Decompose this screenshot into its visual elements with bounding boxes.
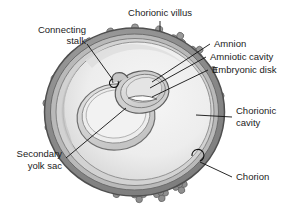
label-amnion: Amnion xyxy=(214,38,246,49)
label-secondary-yolk-sac-line1: Secondary xyxy=(17,148,63,159)
diagram-svg: Chorionic villus Connecting stalk Amnion… xyxy=(0,0,307,208)
label-embryonic-disk: Embryonic disk xyxy=(212,64,277,75)
label-chorionic-villus: Chorionic villus xyxy=(128,7,192,18)
label-connecting-stalk-line1: Connecting xyxy=(38,24,86,35)
label-chorionic-cavity-line1: Chorionic xyxy=(236,105,276,116)
label-secondary-yolk-sac-line2: yolk sac xyxy=(28,160,63,171)
label-chorion: Chorion xyxy=(236,171,269,182)
label-connecting-stalk-line2: stalk xyxy=(66,35,86,46)
label-amniotic-cavity: Amniotic cavity xyxy=(210,51,274,62)
figure-container: Chorionic villus Connecting stalk Amnion… xyxy=(0,0,307,208)
label-chorionic-cavity-line2: cavity xyxy=(236,117,261,128)
